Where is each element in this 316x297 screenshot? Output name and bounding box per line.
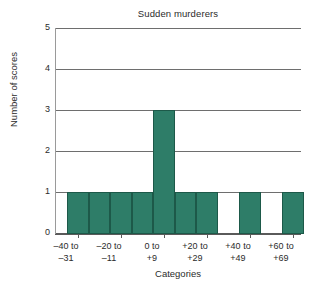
bar-0-to-plus9 xyxy=(153,110,175,234)
x-tick-4 xyxy=(250,234,251,238)
bar-neg20-to-neg11 xyxy=(110,192,132,234)
x-tick-label-5: +60 to +69 xyxy=(253,241,309,264)
x-axis-line xyxy=(55,234,301,235)
y-tick-labels: 5 4 3 2 1 0 xyxy=(22,28,50,234)
gridline-3 xyxy=(55,110,301,111)
x-tick-label-4-line1: +40 to xyxy=(225,241,250,251)
x-axis-title: Categories xyxy=(55,268,301,279)
y-tick-label-4: 4 xyxy=(28,64,50,73)
bar-neg10-to-neg1 xyxy=(132,192,154,234)
x-tick-label-1-line1: –20 to xyxy=(96,241,121,251)
x-tick-1 xyxy=(121,234,122,238)
y-axis-line xyxy=(55,28,56,234)
bar-neg30-to-neg21 xyxy=(89,192,111,234)
plot-area xyxy=(55,28,301,234)
x-tick-0 xyxy=(78,234,79,238)
x-tick-5 xyxy=(293,234,294,238)
bar-plus10-to-plus19 xyxy=(175,192,197,234)
y-tick-label-0: 0 xyxy=(28,228,50,237)
gridline-4 xyxy=(55,69,301,70)
x-tick-label-2-line1: 0 to xyxy=(144,241,159,251)
y-axis-title: Number of scores xyxy=(8,25,19,155)
bar-neg40-to-neg31 xyxy=(67,192,89,234)
x-tick-label-5-line2: +69 xyxy=(253,253,309,265)
gridline-2 xyxy=(55,151,301,152)
x-tick-label-5-line1: +60 to xyxy=(268,241,293,251)
y-tick-label-3: 3 xyxy=(28,105,50,114)
x-tick-label-0-line1: –40 to xyxy=(53,241,78,251)
y-tick-label-5: 5 xyxy=(28,23,50,32)
bar-plus20-to-plus29 xyxy=(196,192,218,234)
y-tick-label-2: 2 xyxy=(28,146,50,155)
bar-plus60-to-plus69 xyxy=(282,192,304,234)
x-tick-label-3-line1: +20 to xyxy=(182,241,207,251)
y-tick-label-1: 1 xyxy=(28,187,50,196)
chart-title: Sudden murderers xyxy=(55,8,301,19)
bar-plus40-to-plus49 xyxy=(239,192,261,234)
gridline-5 xyxy=(55,28,301,29)
chart-figure: Sudden murderers 5 4 3 2 1 0 Number of s… xyxy=(0,0,316,297)
x-tick-3 xyxy=(207,234,208,238)
x-tick-2 xyxy=(164,234,165,238)
